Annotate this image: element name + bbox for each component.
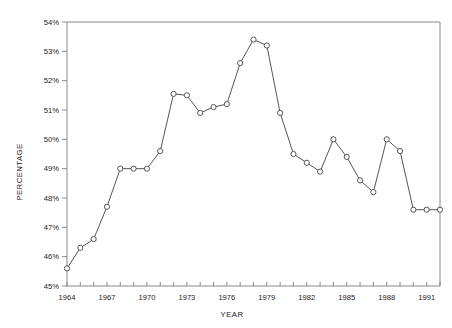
y-axis-tick-label: 49% bbox=[44, 164, 59, 173]
data-point-marker bbox=[318, 169, 323, 174]
line-chart: 45%46%47%48%49%50%51%52%53%54% 196419671… bbox=[0, 0, 452, 328]
x-axis-tick-label: 1973 bbox=[178, 293, 195, 302]
series-line bbox=[67, 40, 440, 269]
data-point-marker bbox=[411, 207, 416, 212]
data-point-marker bbox=[144, 166, 149, 171]
y-axis-tick-labels: 45%46%47%48%49%50%51%52%53%54% bbox=[44, 18, 59, 291]
data-point-marker bbox=[437, 207, 442, 212]
y-axis-tick-label: 46% bbox=[44, 252, 59, 261]
x-axis-tick-label: 1967 bbox=[99, 293, 116, 302]
data-point-marker bbox=[291, 151, 296, 156]
data-point-marker bbox=[251, 37, 256, 42]
y-axis-tick-label: 54% bbox=[44, 18, 59, 27]
data-point-marker bbox=[304, 160, 309, 165]
data-point-marker bbox=[384, 137, 389, 142]
y-axis-title: PERCENTAGE bbox=[15, 143, 24, 200]
x-axis-tick-label: 1976 bbox=[218, 293, 235, 302]
x-axis-tick-label: 1985 bbox=[338, 293, 355, 302]
data-point-marker bbox=[78, 245, 83, 250]
x-axis-tick-label: 1991 bbox=[418, 293, 435, 302]
data-point-marker bbox=[91, 236, 96, 241]
x-axis-tick-labels: 1964196719701973197619791982198519881991 bbox=[59, 293, 436, 302]
y-axis-tick-label: 50% bbox=[44, 135, 59, 144]
x-axis-title: YEAR bbox=[221, 310, 244, 319]
data-point-marker bbox=[224, 102, 229, 107]
y-axis-ticks bbox=[62, 22, 67, 286]
x-axis-tick-label: 1982 bbox=[298, 293, 315, 302]
y-axis-tick-label: 51% bbox=[44, 106, 59, 115]
data-point-marker bbox=[238, 60, 243, 65]
data-line-series bbox=[67, 40, 440, 269]
data-point-marker bbox=[371, 190, 376, 195]
x-axis-tick-label: 1970 bbox=[138, 293, 155, 302]
data-point-marker bbox=[158, 148, 163, 153]
data-point-marker bbox=[171, 91, 176, 96]
data-point-marker bbox=[198, 110, 203, 115]
y-axis-tick-label: 52% bbox=[44, 76, 59, 85]
data-point-marker bbox=[331, 137, 336, 142]
data-point-marker bbox=[357, 178, 362, 183]
data-point-marker bbox=[184, 93, 189, 98]
data-point-marker bbox=[264, 43, 269, 48]
x-axis-tick-label: 1988 bbox=[378, 293, 395, 302]
chart-canvas: 45%46%47%48%49%50%51%52%53%54% 196419671… bbox=[0, 0, 452, 328]
data-point-marker bbox=[131, 166, 136, 171]
data-point-marker bbox=[278, 110, 283, 115]
x-axis-ticks bbox=[67, 282, 440, 286]
data-point-marker bbox=[64, 266, 69, 271]
data-point-marker bbox=[424, 207, 429, 212]
data-point-marker bbox=[397, 148, 402, 153]
data-point-marker bbox=[211, 104, 216, 109]
data-point-markers bbox=[64, 37, 442, 271]
y-axis-tick-label: 45% bbox=[44, 282, 59, 291]
plot-border bbox=[67, 22, 440, 286]
plot-frame bbox=[67, 22, 440, 286]
x-axis-tick-label: 1979 bbox=[258, 293, 275, 302]
data-point-marker bbox=[344, 154, 349, 159]
x-axis-tick-label: 1964 bbox=[59, 293, 76, 302]
data-point-marker bbox=[118, 166, 123, 171]
y-axis-tick-label: 47% bbox=[44, 223, 59, 232]
y-axis-tick-label: 48% bbox=[44, 194, 59, 203]
y-axis-tick-label: 53% bbox=[44, 47, 59, 56]
data-point-marker bbox=[104, 204, 109, 209]
